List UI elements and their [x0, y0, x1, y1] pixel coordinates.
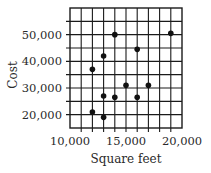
data-point [146, 83, 152, 89]
x-tick-label: 20,000 [162, 134, 202, 148]
y-axis-label: Cost [6, 61, 20, 89]
scatter-chart: 10,00015,00020,000 20,00030,00040,00050,… [0, 0, 211, 173]
chart-svg: 10,00015,00020,000 20,00030,00040,00050,… [0, 0, 211, 173]
x-tick-label: 10,000 [50, 134, 90, 148]
data-point [101, 93, 107, 99]
y-tick-label: 40,000 [22, 54, 62, 68]
data-point [101, 53, 107, 59]
x-axis-ticks: 10,00015,00020,000 [50, 134, 202, 148]
y-axis-ticks: 20,00030,00040,00050,000 [22, 28, 62, 122]
data-point [134, 47, 140, 53]
x-axis-label: Square feet [91, 152, 162, 166]
y-tick-label: 30,000 [22, 81, 62, 95]
data-points [90, 31, 174, 121]
grid-lines [66, 8, 182, 132]
data-point [90, 67, 96, 73]
data-point [90, 109, 96, 115]
x-tick-label: 15,000 [106, 134, 146, 148]
data-point [112, 95, 118, 101]
data-point [134, 95, 140, 101]
data-point [168, 31, 174, 37]
y-tick-label: 50,000 [22, 28, 62, 42]
data-point [123, 83, 129, 89]
data-point [112, 32, 118, 38]
data-point [101, 115, 107, 121]
y-tick-label: 20,000 [22, 108, 62, 122]
